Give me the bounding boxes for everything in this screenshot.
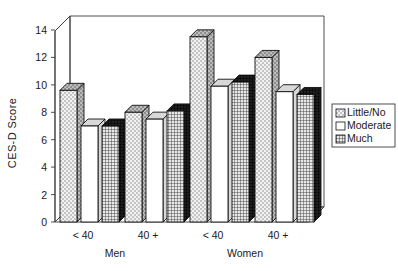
y-tick-label: 12 xyxy=(35,51,47,63)
bar-front-face xyxy=(60,90,77,222)
y-tick-0: 0 xyxy=(41,216,55,228)
y-tick-label: 14 xyxy=(35,24,47,36)
legend-label: Moderate xyxy=(347,119,392,131)
y-tick-12: 12 xyxy=(35,51,55,63)
bar-front-face xyxy=(102,126,119,222)
bar-much-3 xyxy=(297,87,321,222)
ces-d-score-bar-chart: 0 2 4 6 8 10 1 xyxy=(0,0,398,271)
x-axis: < 40 40 + < 40 40 + Men Women xyxy=(73,229,289,259)
bar-little-no-1 xyxy=(125,105,149,222)
bar-much-1 xyxy=(167,104,191,222)
bar-front-face xyxy=(190,37,207,222)
bar-front-face xyxy=(125,112,142,222)
legend-label: Much xyxy=(347,132,373,144)
legend-swatch-moderate xyxy=(336,122,345,130)
bar-little-no-0 xyxy=(60,83,84,222)
bars-layer xyxy=(60,30,321,222)
chart-canvas: 0 2 4 6 8 10 1 xyxy=(0,0,398,271)
bar-front-face xyxy=(167,111,184,222)
x-group-label-men: Men xyxy=(105,247,126,259)
bar-moderate-1 xyxy=(146,112,170,222)
legend-swatch-little-no xyxy=(336,109,345,117)
y-tick-10: 10 xyxy=(35,79,55,91)
y-tick-4: 4 xyxy=(41,161,55,173)
legend-swatch-much xyxy=(336,135,345,143)
legend-label: Little/No xyxy=(347,106,386,118)
y-tick-6: 6 xyxy=(41,134,55,146)
y-tick-14: 14 xyxy=(35,24,55,36)
y-tick-label: 0 xyxy=(41,216,47,228)
x-category-label: 40 + xyxy=(268,229,289,241)
bar-front-face xyxy=(146,119,163,222)
x-category-label: 40 + xyxy=(138,229,159,241)
bar-front-face xyxy=(81,126,98,222)
bar-front-face xyxy=(211,86,228,222)
bar-much-2 xyxy=(232,75,256,222)
bar-front-face xyxy=(276,92,293,222)
x-category-label: < 40 xyxy=(73,229,94,241)
bar-little-no-2 xyxy=(190,30,214,222)
bar-moderate-3 xyxy=(276,85,300,222)
bar-much-0 xyxy=(102,119,126,222)
y-axis-title: CES-D Score xyxy=(6,98,18,168)
bar-front-face xyxy=(232,82,249,222)
bar-moderate-0 xyxy=(81,119,105,222)
y-tick-label: 4 xyxy=(41,161,47,173)
bar-front-face xyxy=(255,57,272,222)
bar-moderate-2 xyxy=(211,79,235,222)
x-group-label-women: Women xyxy=(227,247,263,259)
bar-side-face xyxy=(314,87,321,222)
y-axis: 0 2 4 6 8 10 1 xyxy=(35,24,55,228)
y-tick-2: 2 xyxy=(41,189,55,201)
y-tick-label: 2 xyxy=(41,189,47,201)
y-tick-label: 6 xyxy=(41,134,47,146)
y-tick-label: 10 xyxy=(35,79,47,91)
legend: Little/No Moderate Much xyxy=(332,104,395,147)
y-tick-8: 8 xyxy=(41,106,55,118)
bar-front-face xyxy=(297,94,314,222)
y-tick-label: 8 xyxy=(41,106,47,118)
x-category-label: < 40 xyxy=(203,229,224,241)
bar-little-no-3 xyxy=(255,50,279,222)
